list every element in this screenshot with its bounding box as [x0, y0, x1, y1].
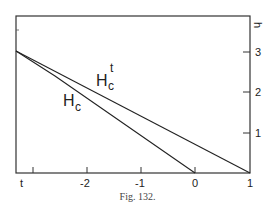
svg-text:t: t: [110, 61, 114, 75]
curve-hc: [16, 51, 195, 173]
y-tick-1: 1: [255, 127, 261, 139]
svg-text:c: c: [75, 100, 81, 114]
svg-text:H: H: [63, 92, 75, 109]
curve-hct: [16, 51, 250, 173]
y-tick-3: 3: [255, 46, 261, 58]
figure-caption: Fig. 132.: [0, 191, 275, 202]
x-tick-0: 0: [192, 177, 198, 189]
y-axis-ticks: [243, 52, 250, 133]
y-tick-2: 2: [255, 86, 261, 98]
figure-plot: 3 2 1 h t -2 -1 0 1 H c t H c: [0, 0, 275, 214]
x-axis-ticks: [33, 167, 195, 173]
plot-frame: [16, 16, 250, 173]
x-tick-minus-2: -2: [80, 177, 90, 189]
svg-text:c: c: [108, 79, 114, 93]
x-tick-1: 1: [247, 177, 253, 189]
x-axis-label: t: [20, 177, 23, 189]
svg-text:H: H: [96, 72, 108, 89]
y-axis-label: h: [252, 22, 264, 28]
label-hct: H c t: [96, 61, 114, 93]
x-tick-minus-1: -1: [135, 177, 145, 189]
label-hc: H c: [63, 92, 81, 114]
